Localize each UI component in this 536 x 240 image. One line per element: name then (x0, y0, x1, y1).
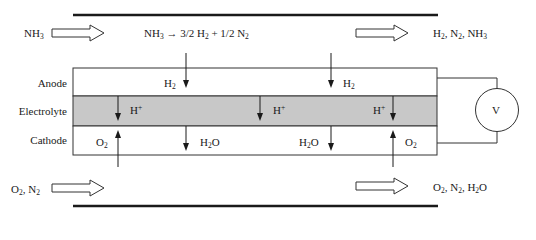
proton-label-2: H+ (273, 104, 285, 116)
outlet-anode-arrow (356, 25, 408, 41)
h2o-label-right: H2O (299, 137, 319, 150)
inlet-cathode-arrow (52, 180, 104, 196)
h2-label-left: H2 (164, 78, 176, 91)
o2-label-right: O2 (405, 137, 417, 150)
outlet-cathode-arrow (356, 178, 408, 194)
cathode-outlet-label: O2, N2, H2O (433, 182, 487, 195)
cathode-label: Cathode (0, 135, 67, 146)
reaction-equation: NH3 → 3/2 H2 + 1/2 N2 (144, 28, 249, 41)
o2-label-left: O2 (96, 137, 108, 150)
proton-label-1: H+ (130, 104, 142, 116)
proton-label-3: H+ (373, 104, 385, 116)
inlet-anode-arrow (52, 25, 104, 41)
cathode-layer (73, 126, 437, 155)
electrolyte-label: Electrolyte (0, 106, 67, 117)
anode-outlet-label: H2, N2, NH3 (433, 28, 487, 41)
cathode-inlet-label: O2, N2 (11, 184, 40, 197)
anode-layer (73, 68, 437, 96)
wire-anode (437, 78, 497, 89)
wire-cathode (437, 131, 497, 143)
h2-label-right: H2 (343, 78, 355, 91)
voltmeter-label: V (492, 105, 500, 116)
anode-label: Anode (0, 78, 67, 89)
h2o-label-left: H2O (200, 137, 220, 150)
anode-inlet-label: NH3 (24, 28, 44, 41)
